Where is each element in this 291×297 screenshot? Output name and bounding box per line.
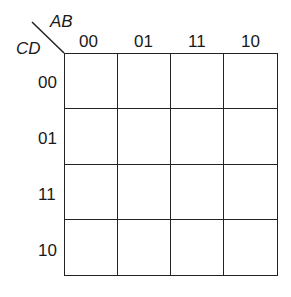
col-label-01: 01 — [134, 33, 153, 50]
kmap-cell — [118, 54, 171, 109]
col-label-10: 10 — [241, 33, 260, 50]
kmap-cell — [224, 220, 277, 275]
col-label-00: 00 — [79, 33, 98, 50]
row-label-00: 00 — [38, 74, 57, 91]
kmap-cell — [224, 165, 277, 220]
kmap-cell — [224, 109, 277, 164]
col-label-11: 11 — [188, 33, 206, 50]
kmap-cell — [171, 220, 224, 275]
row-label-11: 11 — [38, 186, 56, 203]
kmap-cell — [118, 165, 171, 220]
kmap-cell — [65, 54, 118, 109]
col-variable-label: AB — [50, 13, 73, 30]
kmap-cell — [65, 109, 118, 164]
row-variable-label: CD — [16, 40, 41, 57]
kmap-cell — [118, 109, 171, 164]
row-label-01: 01 — [38, 130, 57, 147]
kmap-grid — [64, 53, 278, 276]
kmap-cell — [65, 165, 118, 220]
kmap-cell — [171, 54, 224, 109]
kmap-cell — [171, 109, 224, 164]
kmap-cell — [65, 220, 118, 275]
row-label-10: 10 — [38, 242, 57, 259]
kmap-cell — [224, 54, 277, 109]
kmap-cell — [118, 220, 171, 275]
kmap-cell — [171, 165, 224, 220]
